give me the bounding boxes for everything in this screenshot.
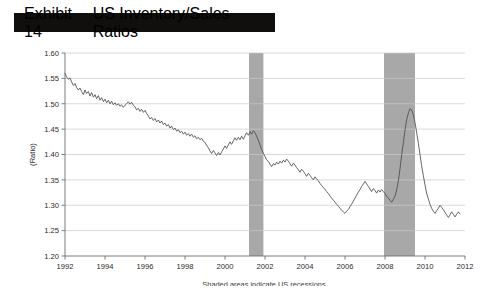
- y-tick-label: 1.30: [44, 201, 59, 210]
- x-tick-label: 1996: [137, 262, 154, 271]
- chart-canvas: 1.201.251.301.351.401.451.501.551.60 199…: [0, 38, 484, 286]
- x-axis-ticks-group: 1992199419961998200020022004200620082010…: [57, 256, 474, 271]
- x-tick-label: 1992: [57, 262, 74, 271]
- x-tick-label: 2012: [457, 262, 474, 271]
- y-tick-label: 1.55: [44, 74, 59, 83]
- x-tick-label: 2006: [337, 262, 354, 271]
- chart-footnote: Shaded areas indicate US recessions.: [202, 280, 327, 286]
- x-tick-label: 2008: [377, 262, 394, 271]
- y-tick-label: 1.20: [44, 252, 59, 261]
- x-tick-label: 1994: [97, 262, 114, 271]
- y-tick-label: 1.50: [44, 100, 59, 109]
- x-tick-label: 2004: [297, 262, 314, 271]
- inventory-sales-ratio-chart: 1.201.251.301.351.401.451.501.551.60 199…: [0, 38, 484, 286]
- x-tick-label: 2000: [217, 262, 234, 271]
- y-tick-label: 1.35: [44, 176, 59, 185]
- y-tick-label: 1.40: [44, 150, 59, 159]
- exhibit-title-bar: Exhibit 14 US Inventory/Sales Ratios: [14, 13, 275, 32]
- y-tick-label: 1.60: [44, 49, 59, 58]
- x-tick-label: 2002: [257, 262, 274, 271]
- y-tick-label: 1.45: [44, 125, 59, 134]
- y-axis-ticks-group: 1.201.251.301.351.401.451.501.551.60: [44, 49, 65, 261]
- page-title: US Inventory/Sales Ratios: [93, 5, 275, 41]
- x-tick-label: 1998: [177, 262, 194, 271]
- x-tick-label: 2010: [417, 262, 434, 271]
- y-axis-label: (Ratio): [28, 143, 37, 166]
- y-tick-label: 1.25: [44, 226, 59, 235]
- exhibit-number: Exhibit 14: [24, 5, 93, 41]
